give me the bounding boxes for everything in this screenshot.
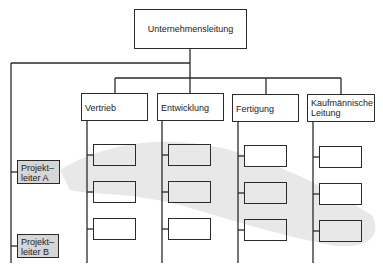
dept-label: Fertigung [236,104,274,114]
box-kaufmaennische-leitung: Kaufmännische Leitung [307,94,375,122]
sub-box [319,220,362,242]
sub-box [168,218,211,240]
sub-box [93,181,136,203]
pl-label-line1: Projekt– [21,237,58,247]
sub-box [319,146,362,168]
sub-box [93,218,136,240]
sub-box [244,182,287,204]
sub-box [168,181,211,203]
dept-label: Entwicklung [161,103,209,113]
sub-box [93,144,136,166]
sub-box [319,183,362,205]
box-fertigung: Fertigung [232,94,299,122]
sub-box [244,219,287,241]
sub-box [244,145,287,167]
dept-label-line2: Leitung [311,108,374,118]
sub-box [168,144,211,166]
box-vertrieb: Vertrieb [81,93,148,121]
pl-label-line1: Projekt– [21,163,59,173]
dept-label: Vertrieb [85,103,116,113]
pl-label-line2: leiter B [21,247,58,257]
pl-label-line2: leiter A [21,173,59,183]
title-label: Unternehmensleitung [148,24,234,34]
box-projektleiter-b: Projekt– leiter B [17,234,59,258]
dept-label-line1: Kaufmännische [311,98,374,108]
box-projektleiter-a: Projekt– leiter A [17,160,60,184]
box-entwicklung: Entwicklung [157,93,224,121]
box-unternehmensleitung: Unternehmensleitung [134,9,247,49]
